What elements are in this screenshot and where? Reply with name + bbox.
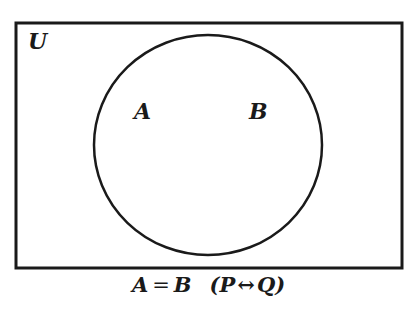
biconditional-arrow-icon: ↔: [237, 272, 255, 297]
caption-p: P: [219, 272, 235, 297]
universe-rectangle: [16, 23, 402, 268]
caption-paren-close: ): [275, 272, 285, 297]
set-b-label: B: [249, 100, 268, 122]
caption-q: Q: [257, 272, 275, 297]
caption-equals-sign: =: [152, 273, 170, 297]
caption-set-b: B: [174, 272, 192, 297]
caption-set-a: A: [132, 272, 148, 297]
set-a-label: A: [134, 100, 151, 122]
universe-label: U: [28, 30, 47, 52]
venn-diagram: [0, 0, 417, 314]
diagram-caption: A=B(P↔Q): [0, 274, 417, 296]
caption-paren-open: (: [210, 272, 220, 297]
set-a-b-circle: [94, 35, 322, 255]
